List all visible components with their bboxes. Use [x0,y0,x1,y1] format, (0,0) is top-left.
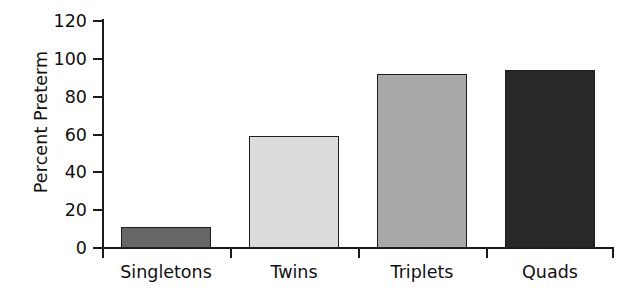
y-axis-tick: 80 [93,96,102,98]
y-axis-tick: 120 [93,20,102,22]
bar-singletons [121,227,211,248]
x-axis-label: Quads [522,262,578,282]
y-axis-tick: 60 [93,134,102,136]
y-axis-tick-label: 60 [65,125,93,145]
x-axis-tick [486,248,488,258]
bar-twins [249,136,339,248]
x-axis-tick [612,248,614,258]
y-axis-tick: 20 [93,209,102,211]
y-axis-title: Percent Preterm [31,7,51,237]
y-axis-tick-label: 0 [76,238,93,258]
chart-figure: Percent Preterm 020406080100120 Singleto… [0,0,626,301]
x-axis-label: Triplets [391,262,454,282]
y-axis-tick-label: 100 [54,49,93,69]
y-axis-tick: 0 [93,247,102,249]
x-axis-tick [102,248,104,258]
bar-quads [505,70,595,248]
x-axis-label: Singletons [120,262,212,282]
y-axis-tick-label: 40 [65,162,93,182]
x-axis-label: Twins [270,262,317,282]
y-axis-tick: 100 [93,58,102,60]
bar-triplets [377,74,467,248]
y-axis-tick-label: 20 [65,200,93,220]
plot-area [102,21,614,248]
y-axis-tick: 40 [93,171,102,173]
y-axis-tick-label: 80 [65,87,93,107]
x-axis-tick [230,248,232,258]
y-axis-tick-label: 120 [54,11,93,31]
x-axis-tick [358,248,360,258]
